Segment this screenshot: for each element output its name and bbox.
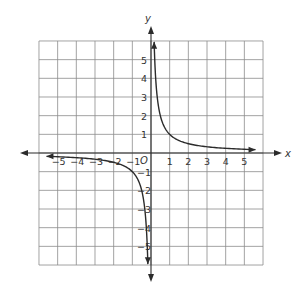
y-axis-label: y (144, 13, 152, 24)
y-axis-top-arrow-icon (148, 26, 154, 34)
y-tick-label: −5 (137, 241, 151, 252)
x-axis-left-arrow-icon (20, 150, 28, 156)
y-axis-bottom-arrow-icon (148, 274, 154, 282)
curve-arrow-up-icon (151, 42, 157, 49)
y-tick-label: −4 (137, 223, 151, 234)
y-tick-label: 4 (141, 73, 147, 84)
y-tick-label: −1 (137, 167, 151, 178)
curve-arrow-right-icon (249, 147, 256, 153)
hyperbola-chart: x y O −5−4−3−2−11234554321−1−2−3−4−5 (0, 0, 304, 294)
y-tick-label: 2 (141, 111, 147, 122)
x-tick-label: 1 (167, 156, 173, 167)
x-tick-label: −3 (89, 156, 103, 167)
curve-arrow-down-icon (145, 257, 151, 264)
y-tick-label: 3 (141, 92, 147, 103)
y-tick-label: 1 (141, 129, 147, 140)
x-tick-label: 2 (185, 156, 191, 167)
origin-label: O (140, 155, 148, 166)
x-tick-label: 5 (241, 156, 247, 167)
curve-arrow-left-icon (46, 153, 53, 159)
y-tick-label: −2 (137, 185, 151, 196)
x-axis-right-arrow-icon (274, 150, 282, 156)
x-tick-label: 4 (223, 156, 229, 167)
y-tick-label: 5 (141, 55, 147, 66)
x-axis-label: x (284, 148, 291, 159)
x-tick-label: −1 (126, 156, 140, 167)
x-tick-label: 3 (204, 156, 210, 167)
